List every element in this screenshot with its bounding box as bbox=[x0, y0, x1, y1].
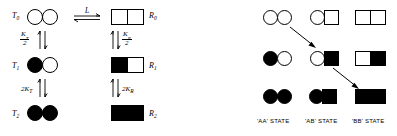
transition-arrows-diagonal bbox=[0, 0, 397, 136]
state-label-aa: 'AA' STATE bbox=[257, 118, 289, 124]
allosteric-model-figure: T0 L R0 KT 2 KR 2 T1 R1 bbox=[0, 0, 397, 136]
arrow-aa0-to-ab1 bbox=[290, 27, 316, 48]
state-label-ab: 'AB' STATE bbox=[305, 118, 337, 124]
arrow-ab1-to-bb2 bbox=[333, 68, 359, 89]
state-label-bb: 'BB' STATE bbox=[352, 118, 384, 124]
